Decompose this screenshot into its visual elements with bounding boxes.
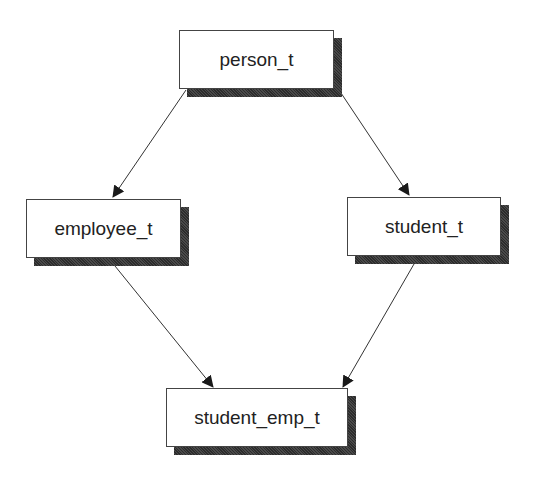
node-employee[interactable]: employee_t bbox=[26, 199, 181, 258]
node-student-emp[interactable]: student_emp_t bbox=[166, 388, 348, 447]
node-person[interactable]: person_t bbox=[179, 30, 334, 89]
node-label: student_emp_t bbox=[194, 407, 320, 429]
node-label: employee_t bbox=[54, 218, 152, 240]
edge-student-to-student-emp bbox=[343, 264, 414, 387]
edge-person-to-employee bbox=[113, 90, 186, 197]
inheritance-diagram: person_t employee_t student_t student_em… bbox=[0, 0, 538, 484]
node-student[interactable]: student_t bbox=[347, 197, 501, 256]
node-label: person_t bbox=[220, 49, 294, 71]
edge-person-to-student bbox=[339, 90, 409, 195]
edge-employee-to-student-emp bbox=[115, 266, 213, 387]
node-label: student_t bbox=[385, 216, 463, 238]
